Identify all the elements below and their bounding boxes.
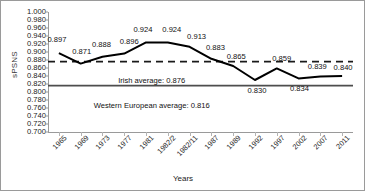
y-axis-tick-mark [45, 68, 48, 69]
x-axis-tick-labels: 196519691973197719811982/21982/111987198… [48, 134, 353, 174]
data-point-label: 0.830 [247, 87, 266, 95]
data-point-label: 0.839 [308, 64, 327, 72]
plot-area [48, 12, 353, 132]
data-point-label: 0.913 [187, 33, 206, 41]
y-axis-tick-mark [45, 132, 48, 133]
data-point-label: 0.865 [227, 53, 246, 61]
data-point-label: 0.897 [47, 36, 66, 44]
chart-container: sPSNS 1.0000.9800.9600.9400.9200.9000.88… [0, 0, 366, 192]
y-axis-tick-mark [45, 20, 48, 21]
data-point-label: 0.840 [334, 64, 353, 72]
data-point-label: 0.924 [134, 27, 153, 35]
y-axis-tick-mark [45, 108, 48, 109]
reference-line-label-western-european-average: Western European average: 0.816 [94, 102, 210, 110]
data-point-label: 0.883 [206, 44, 225, 52]
y-axis-tick-mark [45, 92, 48, 93]
y-axis-tick-mark [45, 116, 48, 117]
data-point-label: 0.924 [162, 27, 181, 35]
data-point-label: 0.834 [290, 86, 309, 94]
y-axis-tick-label: 0.700 [27, 128, 46, 136]
y-axis-tick-mark [45, 52, 48, 53]
reference-line-label-irish-average: Irish average: 0.876 [118, 77, 185, 85]
y-axis-tick-mark [45, 28, 48, 29]
x-axis-line [48, 132, 353, 133]
data-point-label: 0.888 [92, 41, 111, 49]
y-axis-tick-mark [45, 60, 48, 61]
y-axis-tick-mark [45, 12, 48, 13]
y-axis-tick-mark [45, 84, 48, 85]
y-axis-tick-mark [45, 124, 48, 125]
x-axis-title: Years [0, 174, 366, 183]
y-axis-tick-mark [45, 100, 48, 101]
data-point-label: 0.859 [272, 56, 291, 64]
data-point-label: 0.896 [120, 38, 139, 46]
y-axis-tick-mark [45, 76, 48, 77]
series-svg [48, 12, 353, 132]
data-point-label: 0.871 [72, 48, 91, 56]
